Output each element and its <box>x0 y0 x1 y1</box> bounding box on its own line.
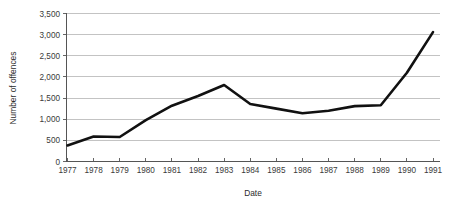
y-tick-label: 1,500 <box>40 94 61 103</box>
y-tick-label: 3,500 <box>40 10 61 19</box>
x-tick-label: 1988 <box>346 166 365 175</box>
x-tick-label: 1985 <box>267 166 286 175</box>
x-tick-label: 1987 <box>319 166 338 175</box>
x-tick-label: 1983 <box>215 166 234 175</box>
x-tick-label: 1982 <box>189 166 208 175</box>
x-tick-labels: 1977197819791980198119821983198419851986… <box>58 166 442 175</box>
x-tick-label: 1981 <box>163 166 182 175</box>
line-chart: 05001,0001,5002,0002,5003,0003,500 19771… <box>0 0 456 203</box>
x-tick-label: 1984 <box>241 166 260 175</box>
x-tick-label: 1977 <box>58 166 77 175</box>
x-tick-label: 1978 <box>84 166 103 175</box>
y-tick-label: 2,500 <box>40 52 61 61</box>
chart-canvas: 05001,0001,5002,0002,5003,0003,500 19771… <box>0 0 456 203</box>
x-tick-label: 1986 <box>293 166 312 175</box>
x-tick-label: 1989 <box>372 166 391 175</box>
x-tick-label: 1980 <box>137 166 156 175</box>
x-axis-title: Date <box>244 188 262 198</box>
y-tick-label: 3,000 <box>40 31 61 40</box>
y-axis-title: Number of offences <box>8 52 18 125</box>
x-tick-label: 1979 <box>111 166 130 175</box>
y-tick-label: 500 <box>46 136 60 145</box>
y-tick-label: 2,000 <box>40 73 61 82</box>
x-tick-label: 1991 <box>424 166 443 175</box>
x-tick-label: 1990 <box>398 166 417 175</box>
y-tick-label: 1,000 <box>40 115 61 124</box>
